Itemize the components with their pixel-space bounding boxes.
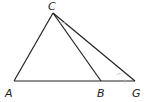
angle-mark-c bbox=[60, 23, 66, 24]
segment-ac bbox=[14, 13, 53, 81]
label-c: C bbox=[48, 0, 56, 13]
angle-mark-g bbox=[117, 73, 121, 75]
label-b: B bbox=[97, 87, 105, 100]
label-a: A bbox=[4, 87, 13, 100]
triangle-diagram: C A B G bbox=[0, 0, 149, 102]
label-g: G bbox=[132, 87, 141, 100]
